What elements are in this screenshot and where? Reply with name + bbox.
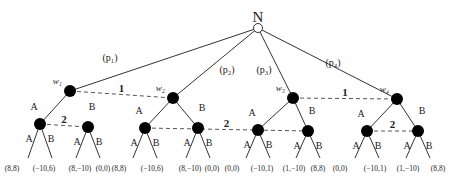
player2-decision-node	[139, 122, 151, 134]
action-label: B	[266, 139, 273, 150]
action-label: B	[96, 136, 103, 147]
payoff-label: (8,8)	[311, 164, 326, 173]
information-set-label: 1	[119, 82, 125, 94]
player1-decision-node	[287, 92, 299, 104]
probability-label: (p₂)	[219, 64, 234, 76]
action-edge	[145, 98, 173, 128]
information-set-label: 1	[342, 86, 348, 98]
action-label: A	[352, 140, 360, 151]
player2-decision-node	[34, 118, 46, 130]
action-edge	[258, 98, 293, 130]
action-label: A	[248, 107, 256, 118]
player2-decision-node	[252, 124, 264, 136]
game-tree-diagram: (p₁)(p₂)(p₃)(p₄)ABABABABABABABABABABABAB…	[0, 0, 457, 181]
action-label: A	[30, 101, 38, 112]
payoff-label: (0,0)	[205, 164, 220, 173]
information-set-label: 2	[61, 113, 67, 125]
action-label: A	[73, 136, 81, 147]
player2-decision-node	[361, 125, 373, 137]
payoff-label: (8,8)	[431, 164, 446, 173]
tree-edges	[28, 28, 430, 158]
player2-decision-node	[412, 125, 424, 137]
action-label: B	[419, 105, 426, 116]
payoff-label: (0,0)	[225, 164, 240, 173]
action-label: A	[403, 140, 411, 151]
player2-decision-node	[192, 122, 204, 134]
payoff-label: (0,0)	[96, 164, 111, 173]
action-label: B	[89, 101, 96, 112]
action-label: B	[48, 133, 55, 144]
payoff-label: (−10,6)	[33, 164, 56, 173]
information-set-label: 2	[224, 117, 230, 129]
payoff-label: (1,−10)	[283, 164, 306, 173]
payoff-label: (−10,6)	[141, 164, 164, 173]
action-label: B	[199, 102, 206, 113]
player1-node-label: w₁	[53, 76, 62, 86]
action-label: B	[309, 105, 316, 116]
probability-label: (p₁)	[102, 52, 117, 64]
probability-label: (p₄)	[325, 57, 340, 69]
action-label: A	[135, 105, 143, 116]
nature-node-label: N	[253, 9, 264, 25]
payoff-label: (0,0)	[333, 164, 348, 173]
payoff-label: (8,8)	[112, 164, 127, 173]
action-label: B	[426, 140, 433, 151]
player1-node-label: w₄	[380, 84, 389, 94]
payoff-label: (1,−10)	[397, 164, 420, 173]
action-label: B	[316, 140, 323, 151]
action-label: A	[293, 140, 301, 151]
player2-decision-node	[302, 125, 314, 137]
action-label: A	[183, 137, 191, 148]
player1-decision-node	[64, 85, 76, 97]
payoff-label: (8,−10)	[69, 164, 92, 173]
payoff-label: (8,8)	[5, 164, 20, 173]
payoff-label: (−10,1)	[364, 164, 387, 173]
tree-labels: (p₁)(p₂)(p₃)(p₄)ABABABABABABABABABABABAB…	[5, 52, 446, 173]
action-label: A	[357, 108, 365, 119]
player2-decision-node	[82, 121, 94, 133]
player1-node-label: w₂	[156, 83, 165, 93]
player1-decision-node	[391, 93, 403, 105]
player1-decision-node	[167, 92, 179, 104]
payoff-label: (8,−10)	[179, 164, 202, 173]
payoff-label: (−10,1)	[251, 164, 274, 173]
action-label: A	[130, 137, 138, 148]
nature-branch-edge	[173, 28, 258, 98]
information-set-line	[293, 98, 397, 99]
probability-label: (p₃)	[256, 64, 271, 76]
nature-branch-edge	[70, 28, 258, 91]
action-label: B	[153, 137, 160, 148]
action-label: B	[206, 137, 213, 148]
action-label: A	[243, 139, 251, 150]
action-label: A	[25, 133, 33, 144]
action-label: B	[375, 140, 382, 151]
player1-node-label: w₃	[276, 83, 285, 93]
information-set-label: 2	[390, 118, 396, 130]
